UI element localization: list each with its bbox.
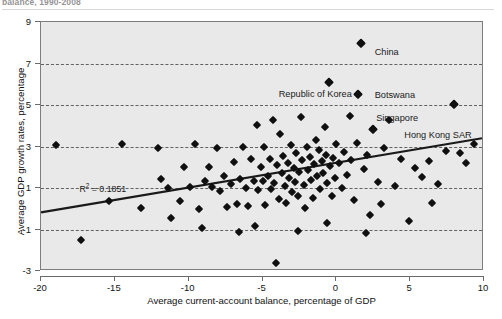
x-tick-mark xyxy=(262,276,263,281)
x-tick-mark xyxy=(114,276,115,281)
y-tick-label: -1 xyxy=(23,223,31,234)
x-tick-mark xyxy=(188,276,189,281)
x-tick-label: -15 xyxy=(107,282,121,293)
y-tick-label: 5 xyxy=(26,99,31,110)
x-tick-label: 10 xyxy=(478,282,489,293)
y-tick-mark xyxy=(35,270,40,271)
r-squared-annotation: R2 = 0.1851 xyxy=(79,182,126,194)
y-tick-label: 1 xyxy=(26,182,31,193)
x-tick-label: -20 xyxy=(33,282,47,293)
plot-area: ChinaRepublic of KoreaBotswanaSingaporeH… xyxy=(40,21,483,270)
title-divider xyxy=(2,9,494,10)
annotation-label: Botswana xyxy=(375,90,415,100)
y-tick-label: -3 xyxy=(23,265,31,276)
y-tick-label: 9 xyxy=(26,16,31,27)
y-tick-label: 3 xyxy=(26,140,31,151)
figure-title: balance, 1990-2008 xyxy=(2,0,81,6)
annotation-label: Republic of Korea xyxy=(279,89,352,99)
x-tick-mark xyxy=(483,276,484,281)
annotation-label: Hong Kong SAR xyxy=(404,130,471,140)
x-tick-mark xyxy=(335,276,336,281)
y-tick-label: 7 xyxy=(26,57,31,68)
annotation-label: China xyxy=(375,47,399,57)
x-tick-label: -10 xyxy=(181,282,195,293)
figure-container: balance, 1990-2008 Average GDP growth ra… xyxy=(0,0,502,319)
x-tick-label: -5 xyxy=(257,282,265,293)
x-tick-label: 5 xyxy=(407,282,412,293)
x-tick-label: 0 xyxy=(333,282,338,293)
x-tick-mark xyxy=(409,276,410,281)
x-tick-mark xyxy=(40,276,41,281)
annotation-label: Singapore xyxy=(376,113,418,123)
y-axis-label: Average GDP growth rates, percentage xyxy=(15,52,26,252)
plot-inner: ChinaRepublic of KoreaBotswanaSingaporeH… xyxy=(41,22,482,269)
x-axis-label: Average current-account balance, percent… xyxy=(40,295,483,306)
